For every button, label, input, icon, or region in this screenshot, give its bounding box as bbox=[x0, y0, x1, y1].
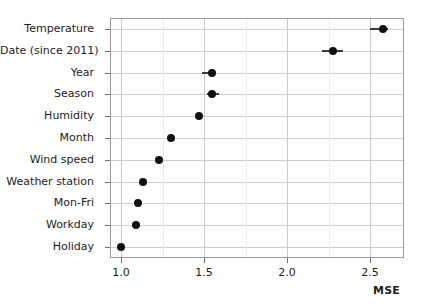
y-tick-mark bbox=[105, 29, 110, 30]
x-tick-mark bbox=[204, 258, 205, 263]
x-tick-mark bbox=[121, 258, 122, 263]
gridline-horizontal bbox=[111, 73, 403, 74]
data-point-marker bbox=[195, 112, 203, 120]
gridline-horizontal bbox=[111, 203, 403, 204]
y-tick-mark bbox=[105, 225, 110, 226]
data-point-marker bbox=[117, 243, 125, 251]
y-tick-label-humidity: Humidity bbox=[0, 110, 101, 121]
y-tick-label-holiday: Holiday bbox=[0, 241, 101, 252]
gridline-horizontal bbox=[111, 138, 403, 139]
gridline-vertical-major bbox=[121, 19, 122, 257]
gridline-horizontal bbox=[111, 182, 403, 183]
y-tick-label-mon-fri: Mon-Fri bbox=[0, 197, 101, 208]
x-tick-mark bbox=[370, 258, 371, 263]
data-point-marker bbox=[134, 199, 142, 207]
x-tick-label: 1.0 bbox=[101, 267, 141, 278]
gridline-horizontal bbox=[111, 247, 403, 248]
y-tick-mark bbox=[105, 73, 110, 74]
data-point-marker bbox=[132, 221, 140, 229]
y-tick-label-date-since-2011: Date (since 2011) bbox=[0, 45, 101, 56]
gridline-vertical-major bbox=[370, 19, 371, 257]
y-tick-label-year: Year bbox=[0, 67, 101, 78]
y-tick-label-weather-station: Weather station bbox=[0, 176, 101, 187]
y-tick-mark bbox=[105, 94, 110, 95]
x-tick-label: 1.5 bbox=[184, 267, 224, 278]
data-point-marker bbox=[167, 134, 175, 142]
gridline-horizontal bbox=[111, 29, 403, 30]
x-tick-label: 2.5 bbox=[350, 267, 390, 278]
gridline-vertical-major bbox=[204, 19, 205, 257]
y-tick-mark bbox=[105, 138, 110, 139]
x-tick-mark bbox=[287, 258, 288, 263]
y-tick-mark bbox=[105, 203, 110, 204]
y-tick-label-workday: Workday bbox=[0, 219, 101, 230]
gridline-horizontal bbox=[111, 116, 403, 117]
gridline-vertical-minor bbox=[163, 19, 164, 257]
y-tick-label-temperature: Temperature bbox=[0, 23, 101, 34]
y-tick-mark bbox=[105, 116, 110, 117]
gridline-vertical-minor bbox=[329, 19, 330, 257]
mse-dot-chart: TemperatureDate (since 2011)YearSeasonHu… bbox=[0, 0, 422, 304]
y-tick-mark bbox=[105, 182, 110, 183]
data-point-marker bbox=[139, 178, 147, 186]
y-tick-label-month: Month bbox=[0, 132, 101, 143]
gridline-vertical-major bbox=[287, 19, 288, 257]
gridline-horizontal bbox=[111, 94, 403, 95]
gridline-horizontal bbox=[111, 225, 403, 226]
y-tick-mark bbox=[105, 247, 110, 248]
y-tick-mark bbox=[105, 160, 110, 161]
x-axis-title: MSE bbox=[373, 285, 400, 296]
y-tick-label-season: Season bbox=[0, 88, 101, 99]
y-tick-mark bbox=[105, 51, 110, 52]
gridline-horizontal bbox=[111, 51, 403, 52]
y-tick-label-wind-speed: Wind speed bbox=[0, 154, 101, 165]
gridline-vertical-minor bbox=[246, 19, 247, 257]
x-tick-label: 2.0 bbox=[267, 267, 307, 278]
